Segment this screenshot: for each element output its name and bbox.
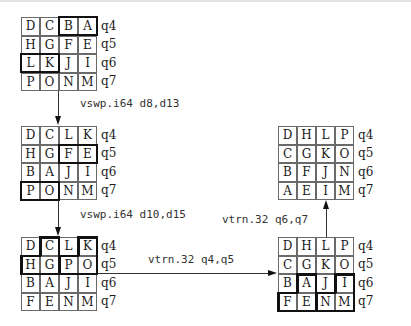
cell: B <box>59 17 78 36</box>
cell: A <box>40 163 59 182</box>
cell: O <box>335 145 354 164</box>
register-grid-1: D C B A H G F E L K J I P O N M <box>21 17 97 91</box>
cell: L <box>316 237 335 256</box>
cell: E <box>40 293 59 312</box>
cell: B <box>278 274 297 293</box>
cell: F <box>21 293 40 312</box>
register-label: q4 <box>101 19 116 33</box>
register-label: q7 <box>101 294 116 308</box>
cell: F <box>297 163 316 182</box>
register-grid-3: D C L K H G P O B A J I F E N M <box>21 237 97 311</box>
register-label: q7 <box>358 183 373 197</box>
cell: M <box>335 182 354 201</box>
register-label: q5 <box>358 257 373 271</box>
register-grid-5: D H L P C G K O B F J N A E I M <box>278 126 354 200</box>
register-label: q4 <box>101 239 116 253</box>
cell: O <box>40 73 59 92</box>
cell: L <box>316 126 335 145</box>
cell: J <box>59 54 78 73</box>
cell: J <box>59 274 78 293</box>
cell: L <box>59 237 78 256</box>
cell: D <box>278 126 297 145</box>
register-grid-2: D C L K H G F E B A J I P O N M <box>21 126 97 200</box>
cell: M <box>78 182 97 201</box>
register-label: q6 <box>101 165 116 179</box>
cell: G <box>297 256 316 275</box>
cell: C <box>40 126 59 145</box>
highlight-edge <box>334 273 337 293</box>
highlight-edge <box>77 236 80 256</box>
cell: E <box>78 36 97 55</box>
cell: D <box>278 237 297 256</box>
register-label: q7 <box>101 183 116 197</box>
operation-label-4: vtrn.32 q6,q7 <box>222 213 308 226</box>
register-label: q6 <box>101 276 116 290</box>
cell: N <box>59 182 78 201</box>
cell: H <box>21 145 40 164</box>
operation-label-2: vswp.i64 d10,d15 <box>80 208 186 221</box>
register-grid-4: D H L P C G K O B A J I F E N M <box>278 237 354 311</box>
highlight-edge <box>58 273 98 276</box>
highlight-edge <box>315 292 318 312</box>
register-label: q4 <box>358 128 373 142</box>
cell: E <box>297 293 316 312</box>
arrow-line <box>326 208 327 237</box>
register-label: q4 <box>101 128 116 142</box>
highlight-edge <box>20 255 23 275</box>
cell: L <box>59 126 78 145</box>
cell: O <box>335 256 354 275</box>
cell: J <box>59 163 78 182</box>
cell: K <box>78 237 97 256</box>
register-label: q4 <box>358 239 373 253</box>
cell: P <box>335 126 354 145</box>
arrow-line <box>58 91 59 118</box>
cell: O <box>40 182 59 201</box>
cell: A <box>278 182 297 201</box>
cell: I <box>78 163 97 182</box>
highlight-edge <box>277 310 317 313</box>
highlight-edge <box>39 236 42 256</box>
cell: B <box>21 163 40 182</box>
cell: H <box>21 256 40 275</box>
cell: D <box>21 237 40 256</box>
cell: A <box>297 274 316 293</box>
arrow-down-icon <box>55 227 61 236</box>
cell: N <box>335 163 354 182</box>
cell: D <box>21 17 40 36</box>
register-label: q5 <box>101 146 116 160</box>
register-label: q5 <box>101 37 116 51</box>
cell: F <box>278 293 297 312</box>
cell: O <box>78 256 97 275</box>
cell: K <box>78 126 97 145</box>
cell: L <box>21 54 40 73</box>
cell: G <box>40 256 59 275</box>
highlight-edge <box>277 292 298 295</box>
arrow-down-icon <box>55 116 61 125</box>
cell: B <box>278 163 297 182</box>
operation-label-1: vswp.i64 d8,d13 <box>80 97 179 110</box>
cell: P <box>21 182 40 201</box>
operation-label-3: vtrn.32 q4,q5 <box>148 253 234 266</box>
arrow-line <box>97 273 269 274</box>
highlight-edge <box>315 310 355 313</box>
cell: I <box>78 274 97 293</box>
register-label: q7 <box>101 74 116 88</box>
arrow-line <box>58 200 59 228</box>
cell: P <box>335 237 354 256</box>
register-label: q5 <box>101 257 116 271</box>
cell: K <box>40 54 59 73</box>
cell: J <box>316 274 335 293</box>
cell: K <box>316 145 335 164</box>
arrow-right-icon <box>268 270 277 276</box>
cell: C <box>40 17 59 36</box>
cell: C <box>40 237 59 256</box>
register-label: q5 <box>358 146 373 160</box>
cell: J <box>316 163 335 182</box>
cell: A <box>78 17 97 36</box>
cell: F <box>59 145 78 164</box>
highlight-edge <box>20 255 41 258</box>
cell: M <box>78 73 97 92</box>
register-label: q6 <box>358 165 373 179</box>
register-label: q6 <box>101 56 116 70</box>
cell: H <box>297 237 316 256</box>
